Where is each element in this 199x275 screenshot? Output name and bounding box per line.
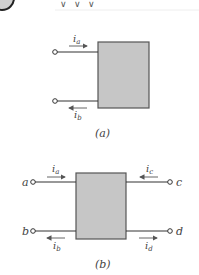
header-strip: ∨ ∨ ∨	[0, 0, 199, 10]
figure-b: a b c d ia ib ic id (b)	[22, 163, 183, 271]
terminal-d	[168, 229, 173, 234]
current-label-ia: ia	[73, 33, 80, 46]
badge-icon	[0, 0, 14, 10]
two-terminal-block	[98, 42, 149, 108]
header-mark: ∨	[60, 0, 67, 9]
header-mark: ∨	[88, 0, 95, 9]
caption-b: (b)	[95, 258, 111, 271]
terminal-bottom	[53, 99, 58, 104]
current-label-ib: ib	[74, 109, 82, 122]
diagram-canvas: ∨ ∨ ∨ ia ib (a) a b c d ia ib	[0, 0, 199, 275]
terminal-label-d: d	[176, 225, 183, 238]
current-label-ib: ib	[53, 240, 61, 253]
current-label-id: id	[145, 240, 153, 253]
figure-a: ia ib (a)	[53, 33, 149, 140]
four-terminal-block	[76, 173, 126, 239]
current-label-ic: ic	[146, 163, 153, 176]
terminal-c	[168, 180, 173, 185]
current-label-ia: ia	[52, 163, 59, 176]
terminal-top	[53, 50, 58, 55]
terminal-label-a: a	[22, 176, 29, 189]
terminal-label-b: b	[22, 225, 29, 238]
caption-a: (a)	[95, 127, 110, 140]
terminal-label-c: c	[176, 176, 182, 189]
terminal-b	[31, 229, 36, 234]
terminal-a	[31, 180, 36, 185]
header-mark: ∨	[74, 0, 81, 9]
